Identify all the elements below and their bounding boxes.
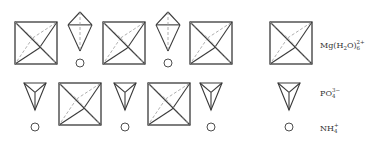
legend-label-mg-hexahydrate: Mg(H2O)2+6 [320,40,365,52]
nh4-ion [76,59,84,67]
struvite-structure-diagram: Mg(H2O)2+6 PO3−4 NH+4 [0,0,373,147]
nh4-ion [31,123,39,131]
legend-label-ammonium: NH+4 [320,123,339,134]
legend-label-phosphate: PO3−4 [320,88,340,99]
po4-tetrahedron [114,83,136,110]
mg-octahedron [59,83,101,125]
structure-drawing [0,0,373,147]
nh4-ion [285,123,293,131]
mg-octahedron [15,22,57,64]
mg-octahedron [190,22,232,64]
mg-octahedron [148,83,190,125]
po4-tetrahedron [156,12,180,51]
nh4-ion [121,123,129,131]
mg-octahedron [270,22,312,64]
po4-tetrahedron [200,83,222,110]
po4-tetrahedron [68,12,92,51]
po4-tetrahedron [278,83,300,110]
nh4-ion [164,59,172,67]
nh4-ion [207,123,215,131]
po4-tetrahedron [24,83,46,110]
mg-octahedron [103,22,145,64]
